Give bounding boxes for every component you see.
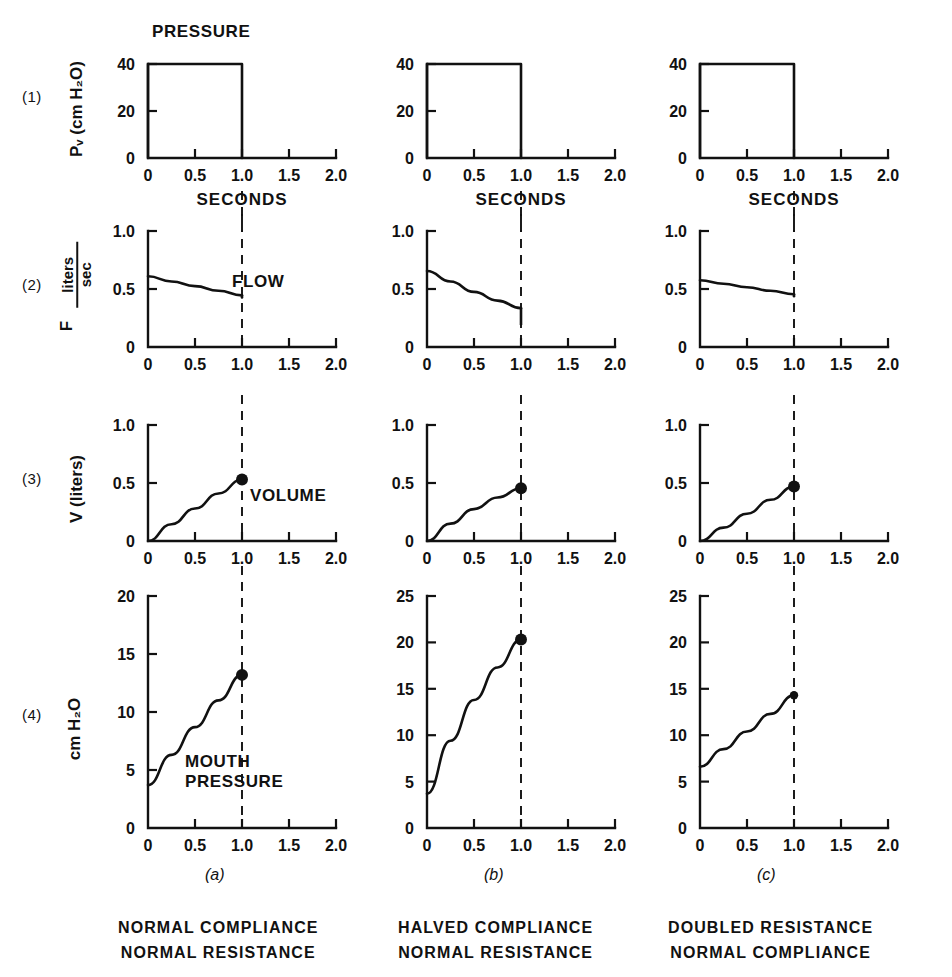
y-tick-label: 0.5: [113, 281, 135, 298]
endpoint-marker: [236, 669, 248, 681]
x-tick-label: 0.5: [463, 837, 485, 854]
y-tick-label: 1.0: [392, 417, 414, 434]
y-tick-label: 0: [678, 150, 687, 167]
y-tick-label: 20: [669, 103, 687, 120]
data-curve: [700, 64, 794, 158]
x-tick-label: 0: [423, 837, 432, 854]
y-tick-label: 5: [126, 762, 135, 779]
y-tick-label: 40: [117, 56, 135, 73]
panel-row2-col-b: 00.51.000.51.01.52.0: [392, 191, 626, 373]
y-tick-label: 0: [126, 339, 135, 356]
data-curve: [700, 695, 794, 766]
panel-row2-col-a: 00.51.000.51.01.52.0: [113, 191, 347, 373]
x-tick-label: 0.5: [463, 550, 485, 567]
y-tick-label: 10: [117, 704, 135, 721]
x-tick-label: 1.5: [830, 837, 852, 854]
data-curve: [700, 280, 794, 294]
y-tick-label: 5: [678, 774, 687, 791]
x-tick-label: 0: [696, 167, 705, 184]
x-tick-label: 1.5: [830, 167, 852, 184]
x-tick-label: 1.5: [278, 167, 300, 184]
x-tick-label: 2.0: [604, 167, 626, 184]
x-tick-label: 1.0: [510, 837, 532, 854]
y-tick-label: 0: [678, 820, 687, 837]
endpoint-marker: [790, 691, 798, 699]
y-tick-label: 0.5: [113, 475, 135, 492]
x-tick-label: 1.0: [510, 167, 532, 184]
x-tick-label: 2.0: [877, 837, 899, 854]
y-tick-label: 10: [669, 727, 687, 744]
x-tick-label: 0.5: [463, 167, 485, 184]
y-tick-label: 1.0: [113, 223, 135, 240]
x-tick-label: 1.5: [278, 550, 300, 567]
x-tick-label: 0: [423, 356, 432, 373]
x-tick-label: 0: [144, 167, 153, 184]
y-tick-label: 10: [396, 727, 414, 744]
x-tick-label: 1.5: [557, 550, 579, 567]
y-tick-label: 0: [405, 533, 414, 550]
data-curve: [427, 271, 521, 308]
x-tick-label: 1.0: [783, 550, 805, 567]
x-tick-label: 0.5: [736, 356, 758, 373]
y-tick-label: 0.5: [392, 281, 414, 298]
x-tick-label: 2.0: [877, 550, 899, 567]
y-tick-label: 20: [117, 588, 135, 605]
y-tick-label: 5: [405, 774, 414, 791]
x-tick-label: 0.5: [184, 837, 206, 854]
x-tick-label: 2.0: [604, 356, 626, 373]
y-tick-label: 15: [117, 646, 135, 663]
y-tick-label: 25: [396, 588, 414, 605]
x-tick-label: 0: [144, 356, 153, 373]
x-tick-label: 0.5: [184, 167, 206, 184]
x-tick-label: 0.5: [463, 356, 485, 373]
x-tick-label: 0.5: [736, 550, 758, 567]
y-tick-label: 0: [405, 820, 414, 837]
x-tick-label: 0: [423, 167, 432, 184]
x-tick-label: 2.0: [604, 837, 626, 854]
x-tick-label: 2.0: [877, 356, 899, 373]
x-tick-label: 1.0: [783, 356, 805, 373]
y-tick-label: 1.0: [113, 417, 135, 434]
endpoint-marker: [515, 634, 527, 646]
y-tick-label: 20: [396, 103, 414, 120]
y-tick-label: 0: [405, 339, 414, 356]
x-tick-label: 0.5: [184, 550, 206, 567]
x-tick-label: 1.0: [231, 837, 253, 854]
y-tick-label: 40: [669, 56, 687, 73]
endpoint-marker: [236, 474, 248, 486]
x-tick-label: 1.5: [830, 356, 852, 373]
x-tick-label: 1.0: [231, 356, 253, 373]
panel-row4-col-a: 0510152000.51.01.52.0: [117, 566, 347, 854]
x-tick-label: 1.5: [278, 837, 300, 854]
x-tick-label: 0: [696, 550, 705, 567]
panel-row3-col-c: 00.51.000.51.01.52.0: [665, 395, 899, 567]
x-tick-label: 1.0: [783, 167, 805, 184]
y-tick-label: 0: [126, 820, 135, 837]
panel-row3-col-a: 00.51.000.51.01.52.0: [113, 395, 347, 567]
y-tick-label: 0.5: [392, 475, 414, 492]
panel-row1-col-a: 0204000.51.01.52.0SECONDS: [117, 56, 347, 232]
y-tick-label: 15: [669, 681, 687, 698]
panel-row4-col-b: 051015202500.51.01.52.0: [396, 566, 626, 854]
endpoint-marker: [515, 482, 527, 494]
x-tick-label: 2.0: [877, 167, 899, 184]
x-tick-label: 0.5: [184, 356, 206, 373]
panel-row3-col-b: 00.51.000.51.01.52.0: [392, 395, 626, 567]
x-tick-label: 1.0: [231, 167, 253, 184]
x-tick-label: 1.0: [510, 550, 532, 567]
x-tick-label: 2.0: [325, 837, 347, 854]
y-tick-label: 0: [405, 150, 414, 167]
y-tick-label: 0.5: [665, 281, 687, 298]
x-tick-label: 0.5: [736, 837, 758, 854]
data-curve: [427, 640, 521, 794]
y-tick-label: 20: [117, 103, 135, 120]
data-curve: [427, 64, 521, 158]
y-tick-label: 0.5: [665, 475, 687, 492]
y-tick-label: 25: [669, 588, 687, 605]
x-tick-label: 0: [144, 837, 153, 854]
y-tick-label: 0: [126, 533, 135, 550]
x-tick-label: 0: [423, 550, 432, 567]
x-tick-label: 1.0: [510, 356, 532, 373]
x-tick-label: 2.0: [325, 550, 347, 567]
x-tick-label: 1.0: [231, 550, 253, 567]
